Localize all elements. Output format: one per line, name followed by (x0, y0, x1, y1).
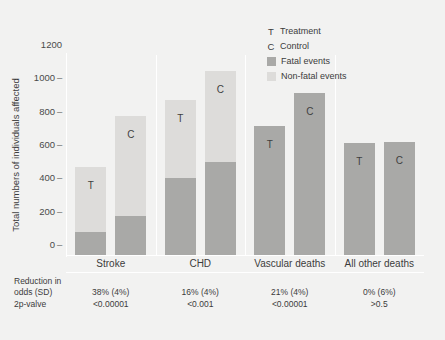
stat-reduction-stroke: 38% (4%) (66, 287, 156, 298)
legend-swatch-icon (267, 57, 276, 66)
bar-segment-fatal (165, 178, 196, 256)
y-axis-tick-1200: 1200 (41, 39, 66, 50)
stat-reduction-chd: 16% (4%) (156, 287, 246, 298)
y-axis-tick-mark: – (57, 172, 62, 183)
stat-reduction-all-other-deaths: 0% (6%) (335, 287, 425, 298)
legend-label: Control (280, 39, 309, 54)
stat-reduction-vascular-deaths: 21% (4%) (245, 287, 335, 298)
category-label-row: StrokeCHDVascular deathsAll other deaths (66, 258, 424, 273)
bar-arm-label: C (205, 84, 236, 95)
y-axis-tick-label: 200 (39, 205, 55, 216)
bar-arm-label: T (165, 113, 196, 124)
bar-arm-label: C (294, 106, 325, 117)
bar-arm-label: T (254, 139, 285, 150)
bar-arm-label: C (384, 155, 415, 166)
stat-pvalue-chd: <0.001 (156, 299, 246, 310)
bar-all-other-deaths-t[interactable]: T (344, 143, 375, 255)
y-axis-tick-label: 0 (50, 239, 55, 250)
y-axis-tick-400: 400– (39, 172, 66, 183)
legend-row-treatment: TTreatment (262, 24, 347, 39)
category-label-vascular-deaths: Vascular deaths (245, 258, 335, 269)
bar-segment-fatal (115, 216, 146, 255)
category-label-chd: CHD (156, 258, 246, 269)
stats-row-label-pvalue: 2p-valve (14, 299, 66, 310)
y-axis-tick-label: 600 (39, 139, 55, 150)
category-separator (156, 55, 157, 255)
y-axis-tick-label: 800 (39, 105, 55, 116)
stats-row-label-reduction-2: odds (SD) (14, 287, 66, 298)
bar-vascular-deaths-c[interactable]: C (294, 93, 325, 255)
legend-row-fatal-events: Fatal events (262, 54, 347, 69)
stats-table-divider (66, 272, 424, 273)
bar-segment-fatal (75, 232, 106, 255)
bar-segment-fatal (205, 162, 236, 255)
y-axis-title: Total numbers of individuals affected (10, 55, 24, 255)
bar-vascular-deaths-t[interactable]: T (254, 126, 285, 255)
y-axis-tick-200: 200– (39, 205, 66, 216)
bar-arm-label: T (344, 156, 375, 167)
legend-label: Treatment (280, 24, 321, 39)
plot-area: 0–200–400–600–800–1000–1200TCTCTCTC (66, 55, 424, 255)
bar-arm-label: T (75, 180, 106, 191)
chart-legend: TTreatmentCControlFatal eventsNon-fatal … (262, 24, 347, 84)
bar-stroke-c[interactable]: C (115, 116, 146, 256)
stat-pvalue-vascular-deaths: <0.00001 (245, 299, 335, 310)
bar-chd-t[interactable]: T (165, 100, 196, 255)
y-axis-tick-1000: 1000– (34, 72, 66, 83)
bar-arm-label: C (115, 129, 146, 140)
bar-all-other-deaths-c[interactable]: C (384, 142, 415, 255)
y-axis-tick-mark: – (57, 72, 62, 83)
legend-swatch-icon (267, 72, 276, 81)
y-axis-tick-mark: – (57, 205, 62, 216)
stats-row-label-reduction-1: Reduction in (14, 276, 66, 287)
legend-row-non-fatal-events: Non-fatal events (262, 69, 347, 84)
legend-label: Non-fatal events (281, 69, 347, 84)
chart-figure: Total numbers of individuals affected 0–… (0, 0, 445, 340)
stat-pvalue-stroke: <0.00001 (66, 299, 156, 310)
legend-label: Fatal events (281, 54, 330, 69)
y-axis-tick-label: 1000 (34, 72, 55, 83)
stat-pvalue-all-other-deaths: >0.5 (335, 299, 425, 310)
legend-key-T: T (262, 24, 280, 39)
bar-segment-fatal (294, 93, 325, 255)
y-axis-tick-label: 1200 (41, 39, 62, 50)
category-separator (245, 55, 246, 255)
bar-chd-c[interactable]: C (205, 71, 236, 255)
category-label-all-other-deaths: All other deaths (335, 258, 425, 269)
y-axis-tick-mark: – (57, 105, 62, 116)
y-axis-tick-label: 400 (39, 172, 55, 183)
y-axis-tick-0: 0– (50, 239, 66, 250)
y-axis-tick-mark: – (57, 239, 62, 250)
category-separator (335, 55, 336, 255)
category-label-stroke: Stroke (66, 258, 156, 269)
x-axis-line (66, 255, 424, 256)
y-axis-tick-600: 600– (39, 139, 66, 150)
legend-row-control: CControl (262, 39, 347, 54)
y-axis-tick-mark: – (57, 139, 62, 150)
y-axis-tick-800: 800– (39, 105, 66, 116)
legend-key-C: C (262, 39, 280, 54)
stats-table: Reduction in odds (SD) 2p-valve 38% (4%)… (0, 276, 445, 320)
bar-stroke-t[interactable]: T (75, 167, 106, 255)
